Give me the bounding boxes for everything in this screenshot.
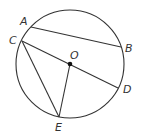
chord-ab bbox=[31, 27, 121, 47]
radius-oe bbox=[59, 64, 70, 117]
circle-diagram: A B C D E O bbox=[0, 0, 141, 136]
center-point bbox=[68, 62, 73, 67]
label-a: A bbox=[19, 15, 28, 28]
label-c: C bbox=[9, 34, 17, 47]
label-e: E bbox=[55, 121, 62, 134]
chord-ce bbox=[22, 41, 59, 117]
label-b: B bbox=[125, 42, 133, 55]
label-o: O bbox=[70, 49, 79, 62]
label-d: D bbox=[123, 83, 131, 96]
